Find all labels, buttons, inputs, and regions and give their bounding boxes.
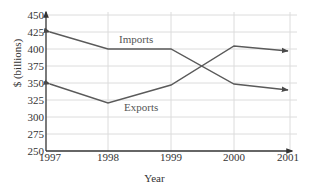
x-tick-label: 1997 xyxy=(27,152,73,163)
series-label-exports: Exports xyxy=(124,102,158,113)
x-axis-title: Year xyxy=(0,172,309,184)
x-tick-label: 1998 xyxy=(85,152,131,163)
series-line-imports xyxy=(50,32,288,90)
series-label-imports: Imports xyxy=(119,34,153,45)
x-tick-label: 1999 xyxy=(148,152,194,163)
series-line-exports xyxy=(50,46,288,103)
x-tick-label: 2001 xyxy=(265,152,309,163)
x-tick-label: 2000 xyxy=(211,152,257,163)
line-chart: 450 425 400 375 350 325 300 275 250 $ (b… xyxy=(0,0,309,190)
